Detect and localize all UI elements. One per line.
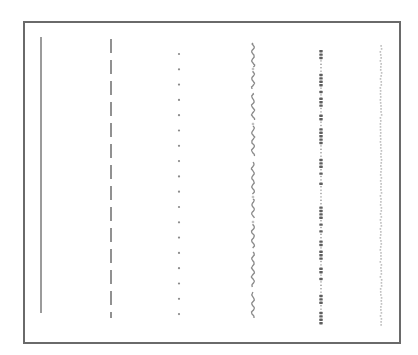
faint-dot: [380, 195, 382, 197]
bead: [319, 162, 322, 164]
dot: [178, 313, 180, 315]
faint-dot: [380, 246, 382, 248]
faint-dot: [381, 303, 383, 305]
faint-dot: [380, 141, 382, 143]
bead: [319, 257, 322, 259]
bead: [320, 308, 322, 309]
faint-dot: [381, 159, 383, 161]
bead: [319, 128, 322, 130]
faint-dot: [380, 180, 382, 182]
faint-dot: [380, 261, 382, 263]
faint-dot: [380, 147, 382, 149]
bead: [320, 125, 322, 126]
faint-dot: [380, 78, 382, 80]
bead: [320, 155, 322, 156]
bead: [319, 53, 322, 55]
faint-dot: [380, 291, 382, 293]
faint-dot: [380, 90, 382, 92]
faint-dot: [380, 315, 382, 317]
dot: [178, 68, 180, 70]
bead: [319, 268, 322, 270]
bead: [320, 237, 322, 238]
faint-dot: [380, 120, 382, 122]
bead: [320, 108, 322, 109]
faint-dot: [381, 297, 383, 299]
faint-dot: [380, 267, 382, 269]
faint-dot: [380, 162, 382, 164]
faint-dot: [380, 132, 382, 134]
faint-dot: [380, 126, 382, 128]
bead: [319, 278, 322, 280]
faint-dot: [380, 96, 382, 98]
bead: [319, 322, 322, 324]
faint-dot: [380, 66, 382, 68]
faint-dot: [380, 309, 382, 311]
faint-dot: [381, 318, 383, 320]
faint-dot: [380, 189, 382, 191]
bead: [319, 312, 322, 314]
faint-dot: [380, 249, 382, 251]
faint-dot: [380, 204, 382, 206]
bead: [320, 176, 322, 177]
bead: [320, 94, 322, 95]
dot: [178, 282, 180, 284]
diagram-canvas: [0, 0, 418, 355]
bead: [319, 295, 322, 297]
faint-dot: [380, 300, 382, 302]
dot: [178, 84, 180, 86]
bead: [320, 145, 322, 146]
bead: [319, 159, 322, 161]
bead: [320, 264, 322, 265]
faint-dot: [380, 117, 382, 119]
bead: [319, 115, 322, 117]
faint-dot: [380, 84, 382, 86]
faint-dot: [380, 237, 382, 239]
dot: [178, 252, 180, 254]
dot: [178, 114, 180, 116]
bead: [320, 234, 322, 235]
bead: [320, 247, 322, 248]
bead: [319, 101, 322, 103]
bead: [320, 227, 322, 228]
faint-dot: [380, 105, 382, 107]
dot: [178, 129, 180, 131]
bead: [320, 179, 322, 180]
faint-dot: [381, 282, 383, 284]
dot: [178, 237, 180, 239]
bead: [319, 244, 322, 246]
bead: [320, 274, 322, 275]
bead: [320, 220, 322, 221]
dot: [178, 221, 180, 223]
bead: [320, 288, 322, 289]
bead: [320, 305, 322, 306]
bead: [320, 149, 322, 150]
bead: [319, 251, 322, 253]
bead: [319, 166, 322, 168]
faint-dot: [380, 156, 382, 158]
faint-dot: [380, 75, 382, 77]
bead: [320, 111, 322, 112]
faint-dot: [381, 216, 383, 218]
bead: [319, 98, 322, 100]
faint-dot: [380, 99, 382, 101]
faint-dot: [380, 219, 382, 221]
faint-dot: [380, 240, 382, 242]
faint-dot: [380, 111, 382, 113]
faint-dot: [380, 45, 382, 47]
bead: [319, 138, 322, 140]
faint-dot: [380, 93, 382, 95]
bead: [319, 57, 322, 59]
faint-dot: [380, 129, 382, 131]
faint-dot: [380, 54, 382, 56]
faint-dot: [380, 81, 382, 83]
faint-dot: [380, 228, 382, 230]
dot: [178, 160, 180, 162]
bead: [319, 319, 322, 321]
bead: [319, 206, 322, 208]
line-style-diagram: [0, 0, 418, 355]
faint-dot: [380, 63, 382, 65]
faint-dot: [380, 198, 382, 200]
bead: [319, 240, 322, 242]
bead: [319, 210, 322, 212]
faint-dot: [380, 255, 382, 257]
